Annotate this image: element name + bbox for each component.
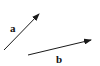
vector-diagram: a b [0, 0, 100, 66]
vector-a-label: a [10, 23, 16, 34]
vector-b-label: b [56, 54, 62, 65]
